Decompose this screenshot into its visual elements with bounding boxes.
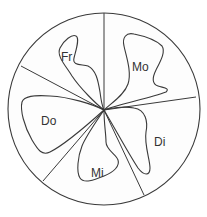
label-mo: Mo xyxy=(132,60,149,74)
label-di: Di xyxy=(154,135,165,149)
label-do: Do xyxy=(41,114,57,128)
label-mi: Mi xyxy=(91,166,104,180)
weekday-sector-diagram: Fr Mo Do Mi Di xyxy=(0,0,207,217)
label-fr: Fr xyxy=(61,50,72,64)
